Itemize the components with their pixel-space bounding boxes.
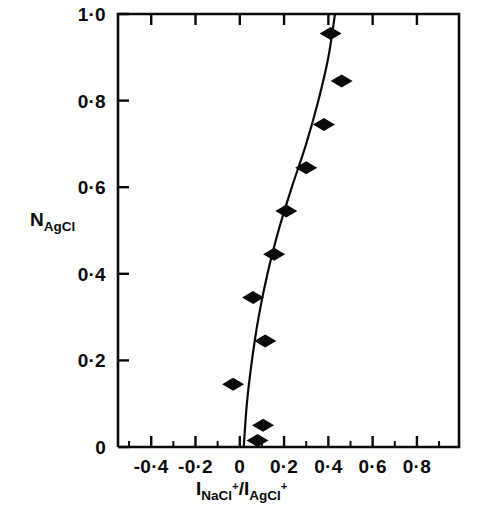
scatter-plot-canvas: -0·4-0·200·20·40·60·8 00·20·40·60·81·0 N… <box>0 0 484 527</box>
x-tick-label: -0·4 <box>134 456 169 477</box>
data-point-marker <box>263 248 285 261</box>
x-axis-top-ticks <box>151 14 417 25</box>
chart-figure: -0·4-0·200·20·40·60·8 00·20·40·60·81·0 N… <box>0 0 484 527</box>
x-axis-title-denominator-superscript: + <box>281 480 288 492</box>
x-tick-label: 0 <box>234 456 245 477</box>
data-point-marker <box>252 419 274 432</box>
x-axis-title-denominator-subscript: AgCl <box>249 488 281 503</box>
fit-curve-line <box>244 14 335 447</box>
y-axis-major-ticks <box>118 14 129 447</box>
x-tick-label: -0·2 <box>178 456 213 477</box>
axis-frame-outline <box>118 14 459 447</box>
data-point-markers <box>222 27 353 447</box>
x-axis-tick-labels: -0·4-0·200·20·40·60·8 <box>134 456 431 477</box>
data-point-marker <box>254 334 276 347</box>
data-point-marker <box>275 205 297 218</box>
y-axis-title-subscript: AgCl <box>44 219 76 234</box>
data-point-marker <box>313 118 335 131</box>
y-tick-label: 0·2 <box>78 350 106 371</box>
x-axis-title: INaCl+/IAgCl+ <box>196 478 288 503</box>
x-tick-label: 0·2 <box>270 456 298 477</box>
svg-text:NAgCl: NAgCl <box>30 209 75 234</box>
x-tick-label: 0·4 <box>314 456 342 477</box>
data-point-marker <box>331 75 353 88</box>
x-axis-title-numerator-subscript: NaCl <box>201 488 232 503</box>
data-point-marker <box>295 161 317 174</box>
y-tick-label: 0·4 <box>78 264 106 285</box>
data-point-marker <box>247 434 269 447</box>
y-tick-label: 0·8 <box>78 91 106 112</box>
y-axis-tick-labels: 00·20·40·60·81·0 <box>78 4 106 458</box>
y-tick-label: 1·0 <box>78 4 106 25</box>
y-tick-label: 0·6 <box>78 177 106 198</box>
data-point-marker <box>320 27 342 40</box>
y-tick-label: 0 <box>95 437 106 458</box>
y-axis-title-base: N <box>30 209 44 230</box>
svg-text:INaCl+/IAgCl+: INaCl+/IAgCl+ <box>196 478 288 503</box>
x-tick-label: 0·6 <box>358 456 386 477</box>
x-axis-major-ticks <box>151 436 417 447</box>
data-point-marker <box>222 378 244 391</box>
axis-frame <box>118 14 459 447</box>
x-tick-label: 0·8 <box>403 456 431 477</box>
y-axis-title: NAgCl <box>30 209 75 234</box>
